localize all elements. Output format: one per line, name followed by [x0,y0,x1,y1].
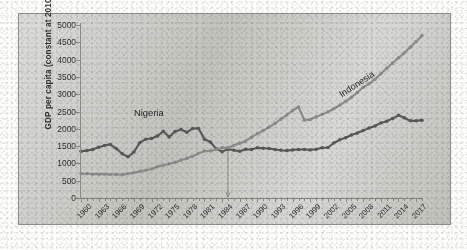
crossover-drop-line [226,150,230,197]
x-tick-mark [393,199,394,201]
series-marker [297,148,301,152]
x-tick-mark [181,199,182,201]
y-tick-mark [76,60,81,61]
series-marker [150,137,154,141]
series-marker [120,173,124,177]
y-axis-tick-label: 5000 [42,21,76,30]
series-marker [297,105,301,109]
series-marker [397,56,401,60]
series-marker [273,148,277,152]
y-axis-tick-label: 3500 [42,72,76,81]
x-tick-mark [404,199,405,201]
series-marker [214,148,218,152]
series-marker [126,172,130,176]
x-tick-mark [287,199,288,201]
x-tick-mark [234,199,235,201]
y-tick-mark [76,112,81,113]
series-marker [303,118,307,122]
series-marker [209,140,213,144]
series-marker [391,61,395,64]
x-tick-mark [110,199,111,201]
y-axis-tick-label: 500 [42,176,76,185]
series-marker [350,133,354,137]
x-tick-mark [122,199,123,201]
series-marker [226,146,230,150]
series-marker [120,152,124,156]
x-tick-mark [322,199,323,201]
series-marker [156,134,160,138]
series-marker [185,156,189,160]
series-marker [379,72,383,76]
y-tick-mark [76,163,81,164]
series-marker [197,127,201,131]
y-axis-tick-label: 1500 [42,142,76,151]
y-tick-mark [76,25,81,26]
x-tick-mark [369,199,370,201]
series-marker [320,146,324,150]
x-tick-mark [281,199,282,201]
x-tick-mark [269,199,270,201]
series-marker [285,149,289,153]
series-marker [250,148,254,152]
series-marker [156,165,160,169]
series-marker [203,137,207,141]
series-marker [279,117,283,121]
series-marker [85,149,89,153]
x-tick-mark [216,199,217,201]
series-marker [273,122,277,126]
series-marker [173,161,177,165]
series-marker [291,109,295,113]
series-marker [291,148,295,152]
x-tick-mark [410,199,411,201]
x-tick-mark [163,199,164,201]
series-marker [97,145,101,149]
series-marker [332,107,336,111]
series-marker [356,131,360,135]
series-marker [326,110,330,114]
x-tick-mark [146,199,147,201]
series-marker [220,150,224,154]
x-axis-tick-labels: 1960196319661969197219751978198119841987… [81,202,426,236]
y-tick-mark [76,77,81,78]
x-tick-mark [87,199,88,201]
series-marker [403,51,407,55]
series-marker [403,116,407,120]
series-marker [238,142,242,146]
series-marker [167,162,171,166]
series-marker [232,149,236,153]
series-marker [91,172,95,176]
x-tick-mark [140,199,141,201]
x-tick-mark [340,199,341,201]
series-marker [303,148,307,152]
y-tick-mark [76,181,81,182]
x-tick-mark [387,199,388,201]
series-layer [81,25,422,198]
series-marker [179,128,183,131]
x-tick-mark [316,199,317,201]
x-tick-mark [357,199,358,201]
x-tick-mark [128,199,129,201]
series-marker [173,130,177,134]
series-marker [203,149,207,153]
series-marker [179,159,183,163]
y-axis-tick-label: 0 [42,194,76,203]
series-marker [132,171,136,175]
series-marker [356,91,360,95]
series-marker [420,118,424,122]
series-marker [385,119,389,123]
series-marker [414,40,418,44]
x-tick-mark [334,199,335,201]
series-marker [285,113,289,117]
series-marker [256,132,260,136]
series-marker [262,129,266,133]
series-marker [115,147,119,151]
series-marker [408,119,412,123]
x-tick-mark [210,199,211,201]
series-marker [162,163,166,167]
series-marker [408,45,412,49]
series-marker [144,137,148,141]
series-marker [185,131,189,135]
series-marker [191,127,195,131]
x-tick-mark [199,199,200,201]
series-marker [379,121,383,125]
